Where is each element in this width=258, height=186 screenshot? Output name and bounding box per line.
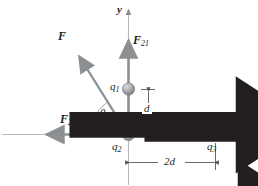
charge-label-q2: q2 bbox=[112, 141, 122, 154]
angle-label-theta: θ bbox=[100, 107, 105, 118]
dimension-label-d: d bbox=[142, 103, 152, 114]
charge-subscript-q2: 2 bbox=[118, 145, 122, 154]
charge-label-q1: q1 bbox=[110, 81, 120, 94]
charge-subscript-q1: 1 bbox=[116, 85, 120, 94]
vector-label-F: F bbox=[58, 27, 66, 43]
charge-subscript-q3: 3 bbox=[213, 145, 217, 154]
vector-arrow-overbar-icon bbox=[58, 29, 258, 186]
y-axis-label: y bbox=[117, 4, 122, 15]
physics-force-diagram: y x F21 F23 F q1 bbox=[0, 0, 258, 186]
vector-symbol-F: F bbox=[58, 29, 66, 43]
dimension-label-2d: 2d bbox=[162, 156, 177, 167]
charge-label-q3: q3 bbox=[207, 141, 217, 154]
